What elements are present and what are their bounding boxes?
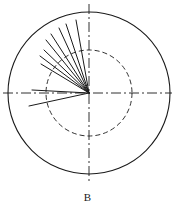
figure-container: B [0,0,175,209]
radial-line [59,28,89,93]
radial-line [29,93,89,106]
radial-line [40,56,89,93]
figure-caption: B [0,192,175,203]
radial-line [46,40,89,93]
polar-diagram [0,0,175,209]
